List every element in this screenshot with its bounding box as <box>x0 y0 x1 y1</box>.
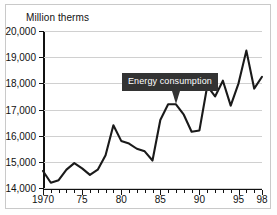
x-tick-minor <box>137 190 138 193</box>
gridline <box>43 188 262 189</box>
chart-figure: Million therms 20,00019,00018,00017,0001… <box>0 0 277 215</box>
x-tick-minor <box>207 190 208 193</box>
x-tick-minor <box>145 190 146 193</box>
x-tick-minor <box>66 190 67 193</box>
y-tick-label: 20,000 <box>0 26 36 37</box>
x-tick-minor <box>192 190 193 193</box>
x-tick-minor <box>90 190 91 193</box>
y-tick-label: 19,000 <box>0 52 36 63</box>
x-tick-minor <box>168 190 169 193</box>
x-tick-minor <box>254 190 255 193</box>
y-tick-label: 14,000 <box>0 183 36 194</box>
x-tick-label: 90 <box>194 194 205 205</box>
x-tick-label: 80 <box>116 194 127 205</box>
y-tick-label: 17,000 <box>0 104 36 115</box>
x-tick-label: 75 <box>77 194 88 205</box>
x-tick-minor <box>223 190 224 193</box>
x-tick-label: 98 <box>256 194 267 205</box>
y-tick-label: 15,000 <box>0 156 36 167</box>
x-tick-minor <box>106 190 107 193</box>
callout-pointer-icon <box>172 91 180 104</box>
x-tick-minor <box>129 190 130 193</box>
x-tick-label: 85 <box>155 194 166 205</box>
x-tick-minor <box>246 190 247 193</box>
y-tick-mark <box>39 188 44 189</box>
x-tick-minor <box>184 190 185 193</box>
x-tick-minor <box>176 190 177 193</box>
series-energy-consumption <box>43 31 262 188</box>
x-tick-minor <box>215 190 216 193</box>
x-tick-minor <box>153 190 154 193</box>
line-path <box>43 51 262 183</box>
annotation-energy-consumption: Energy consumption <box>122 73 218 91</box>
x-tick-minor <box>98 190 99 193</box>
y-tick-label: 18,000 <box>0 78 36 89</box>
y-tick-label: 16,000 <box>0 130 36 141</box>
x-tick-minor <box>113 190 114 193</box>
x-tick-minor <box>59 190 60 193</box>
x-tick-minor <box>74 190 75 193</box>
x-tick-minor <box>51 190 52 193</box>
x-tick-minor <box>231 190 232 193</box>
y-axis-title: Million therms <box>26 12 89 23</box>
x-tick-label: 1970 <box>32 194 54 205</box>
x-tick-label: 95 <box>233 194 244 205</box>
